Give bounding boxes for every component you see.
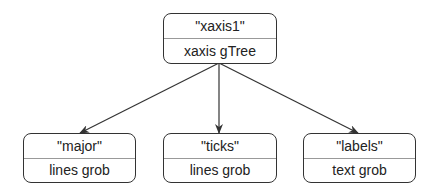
node-labels-name: "labels" bbox=[304, 134, 415, 159]
node-ticks-name: "ticks" bbox=[164, 134, 276, 159]
edge-xaxis1-major bbox=[80, 63, 219, 133]
node-major: "major" lines grob bbox=[23, 133, 136, 183]
node-major-kind: lines grob bbox=[24, 159, 135, 183]
node-labels: "labels" text grob bbox=[303, 133, 416, 183]
node-major-name: "major" bbox=[24, 134, 135, 159]
node-xaxis1-kind: xaxis gTree bbox=[164, 39, 276, 63]
node-ticks: "ticks" lines grob bbox=[163, 133, 277, 183]
node-xaxis1-name: "xaxis1" bbox=[164, 14, 276, 39]
node-ticks-kind: lines grob bbox=[164, 159, 276, 183]
edge-xaxis1-labels bbox=[219, 63, 358, 133]
node-labels-kind: text grob bbox=[304, 159, 415, 183]
node-xaxis1: "xaxis1" xaxis gTree bbox=[163, 13, 277, 64]
